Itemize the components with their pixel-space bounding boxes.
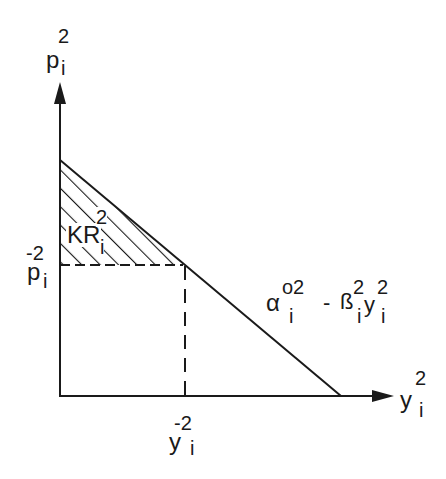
x-axis-arrow-icon xyxy=(372,390,394,402)
area-label-sub: i xyxy=(100,237,104,257)
x-axis-label-base: y xyxy=(400,388,412,412)
x-axis-label-sup: 2 xyxy=(415,368,426,388)
area-label-sup: 2 xyxy=(96,207,107,227)
p-bar-label-sub: i xyxy=(43,271,47,291)
p-bar-label-sup: -2 xyxy=(26,243,44,263)
y-sub: i xyxy=(381,306,385,326)
alpha-symbol: α xyxy=(266,291,280,315)
y-axis-label-base: p xyxy=(46,48,59,72)
y-bar-label-sub: i xyxy=(190,438,194,458)
y-sup: 2 xyxy=(377,277,388,297)
y-symbol: y xyxy=(364,294,375,316)
y-axis-label-sub: i xyxy=(61,58,65,78)
beta-sub: i xyxy=(357,306,361,326)
beta-sup: 2 xyxy=(353,277,364,297)
y-bar-label-sup: -2 xyxy=(174,413,192,433)
x-axis-label-sub: i xyxy=(419,400,423,420)
y-axis-arrow-icon xyxy=(54,82,66,104)
beta-symbol: ß xyxy=(340,291,353,313)
alpha-sub: i xyxy=(289,306,293,326)
minus-sign: - xyxy=(323,292,330,314)
y-axis-label-sup: 2 xyxy=(58,26,69,46)
alpha-sup: o2 xyxy=(282,277,304,297)
